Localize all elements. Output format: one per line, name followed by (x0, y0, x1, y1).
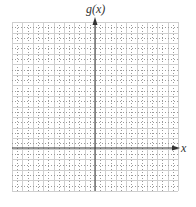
coordinate-grid (0, 0, 196, 207)
y-axis-arrow-icon (93, 17, 98, 25)
y-axis-label: g(x) (86, 2, 105, 17)
x-axis-label: x (181, 141, 186, 156)
